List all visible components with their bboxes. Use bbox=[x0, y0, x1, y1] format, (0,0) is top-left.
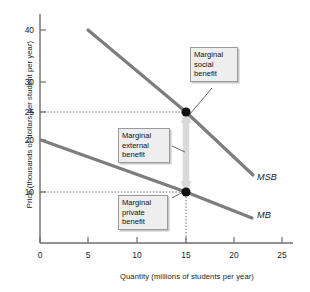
callout-private-line-2: private bbox=[122, 208, 164, 218]
callout-external-line-1: Marginal bbox=[122, 131, 166, 141]
callout-social-line-3: benefit bbox=[194, 69, 234, 79]
x-tick-label-5: 5 bbox=[79, 250, 97, 260]
callout-marginal-social-benefit: Marginal social benefit bbox=[190, 47, 238, 82]
callout-external-line-3: benefit bbox=[122, 150, 166, 160]
marginal-private-benefit-point bbox=[181, 187, 190, 196]
callout-marginal-external-benefit: Marginal external benefit bbox=[118, 128, 170, 163]
x-tick-label-0: 0 bbox=[31, 250, 49, 260]
callout-private-line-1: Marginal bbox=[122, 198, 164, 208]
y-axis-title: Price (thousands of dollars per student … bbox=[25, 40, 34, 210]
x-axis-ticks bbox=[40, 237, 282, 243]
y-axis-ticks bbox=[40, 30, 46, 192]
x-tick-label-10: 10 bbox=[128, 250, 146, 260]
callout-marginal-private-benefit: Marginal private benefit bbox=[118, 195, 168, 230]
chart-figure: 40 30 25 20 10 0 5 10 15 20 25 Price (th… bbox=[0, 0, 310, 292]
msb-curve-label: MSB bbox=[257, 172, 277, 182]
callout-external-line-2: external bbox=[122, 141, 166, 151]
x-tick-label-15: 15 bbox=[177, 250, 195, 260]
leader-social bbox=[190, 88, 212, 114]
x-tick-label-25: 25 bbox=[273, 250, 291, 260]
x-axis-title: Quantity (millions of students per year) bbox=[120, 272, 254, 281]
marginal-external-benefit-arrow bbox=[181, 110, 192, 194]
leader-private bbox=[172, 192, 183, 198]
mb-curve-label: MB bbox=[257, 210, 271, 220]
callout-social-line-1: Marginal bbox=[194, 50, 234, 60]
y-tick-label-40: 40 bbox=[16, 25, 34, 35]
callout-private-line-3: benefit bbox=[122, 217, 164, 227]
x-tick-label-20: 20 bbox=[225, 250, 243, 260]
callout-social-line-2: social bbox=[194, 60, 234, 70]
marginal-social-benefit-point bbox=[181, 107, 190, 116]
